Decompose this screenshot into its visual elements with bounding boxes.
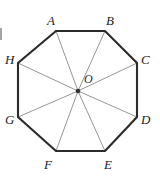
radius-line-d [78,91,137,117]
center-label-o: O [84,73,93,85]
vertex-label-d: D [141,113,150,126]
geometry-figure: A B C D E F G H O [0,0,160,177]
center-point-dot [76,89,81,94]
radius-line-g [18,91,78,117]
vertex-label-f: F [44,158,52,171]
vertex-label-c: C [141,53,150,66]
vertex-label-b: B [106,14,114,27]
octagon-diagram [0,0,160,177]
radius-line-f [56,91,78,151]
vertex-label-e: E [104,158,112,171]
vertex-label-h: H [5,53,14,66]
vertex-label-g: G [5,113,14,126]
vertex-label-a: A [47,14,55,27]
radius-line-e [78,91,105,151]
